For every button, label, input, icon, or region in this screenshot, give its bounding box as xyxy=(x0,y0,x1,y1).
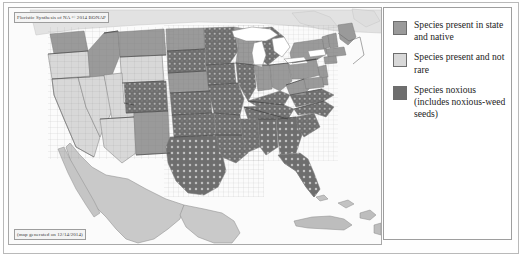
legend-label-noxious: Species noxious (includes noxious-weed s… xyxy=(414,84,509,121)
state-connecticut xyxy=(324,56,337,64)
bonap-distribution-figure: Floristic Synthesis of NA © 2014 BONAP (… xyxy=(0,0,524,260)
legend-item-noxious[interactable]: Species noxious (includes noxious-weed s… xyxy=(393,84,509,121)
map-title-label: Floristic Synthesis of NA © 2014 BONAP xyxy=(14,12,109,23)
state-iowa xyxy=(206,63,236,85)
state-massachusetts xyxy=(326,47,346,57)
legend-label-present-not-rare: Species present and not rare xyxy=(414,51,509,75)
state-kansas xyxy=(170,91,212,115)
legend-label-present-native: Species present in state and native xyxy=(414,19,509,43)
state-south-dakota xyxy=(167,49,206,73)
map-panel[interactable]: Floristic Synthesis of NA © 2014 BONAP (… xyxy=(8,7,382,245)
state-tennessee xyxy=(244,105,294,119)
legend-list: Species present in state and native Spec… xyxy=(393,19,509,128)
state-colorado xyxy=(124,81,168,113)
legend-swatch-icon-noxious xyxy=(393,86,407,100)
legend-swatch-icon-present-not-rare xyxy=(393,53,407,67)
state-new-hampshire xyxy=(328,33,338,48)
us-county-map[interactable] xyxy=(8,7,382,245)
map-vector xyxy=(8,7,382,245)
state-oregon xyxy=(48,51,90,79)
state-new-mexico xyxy=(134,111,170,155)
legend-item-present-native[interactable]: Species present in state and native xyxy=(393,19,509,43)
legend-panel: Species present in state and native Spec… xyxy=(383,7,512,240)
state-wyoming xyxy=(120,55,164,83)
legend-swatch-icon-present-native xyxy=(393,21,407,35)
state-missouri xyxy=(208,83,244,115)
state-washington xyxy=(50,31,88,54)
state-maryland xyxy=(304,77,324,89)
state-north-dakota xyxy=(166,28,205,51)
map-caption-label: (map generated on 12/14/2014) xyxy=(14,229,86,240)
legend-item-present-not-rare[interactable]: Species present and not rare xyxy=(393,51,509,75)
state-oklahoma xyxy=(172,113,216,137)
state-arkansas xyxy=(214,113,242,135)
state-new-jersey xyxy=(318,65,328,78)
state-nebraska xyxy=(168,71,210,93)
